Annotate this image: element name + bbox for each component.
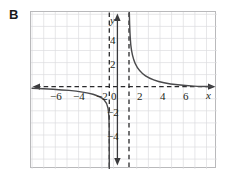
x-tick-label-2: 2 <box>137 91 143 102</box>
x-tick-label-6: 6 <box>183 91 189 102</box>
y-tick-label-2: 2 <box>110 59 116 70</box>
x-tick-label-neg2: −2 <box>96 91 108 102</box>
x-tick-label-neg4: −4 <box>73 91 85 102</box>
x-axis <box>33 84 216 90</box>
y-tick-label-neg4: −4 <box>107 131 119 142</box>
panel-label: B <box>9 8 18 21</box>
figure-panel: B <box>0 0 226 174</box>
x-tick-label-0: 0 <box>111 91 117 102</box>
y-axis-label: y <box>110 15 115 26</box>
plot-area: y x −6 −4 −2 0 2 4 6 4 2 −2 −4 <box>30 11 216 168</box>
y-tick-label-neg2: −2 <box>107 107 119 118</box>
x-tick-label-4: 4 <box>160 91 166 102</box>
x-axis-label: x <box>206 90 211 101</box>
y-tick-label-4: 4 <box>110 35 116 46</box>
curve-right-branch <box>129 13 212 87</box>
x-tick-label-neg6: −6 <box>50 91 62 102</box>
